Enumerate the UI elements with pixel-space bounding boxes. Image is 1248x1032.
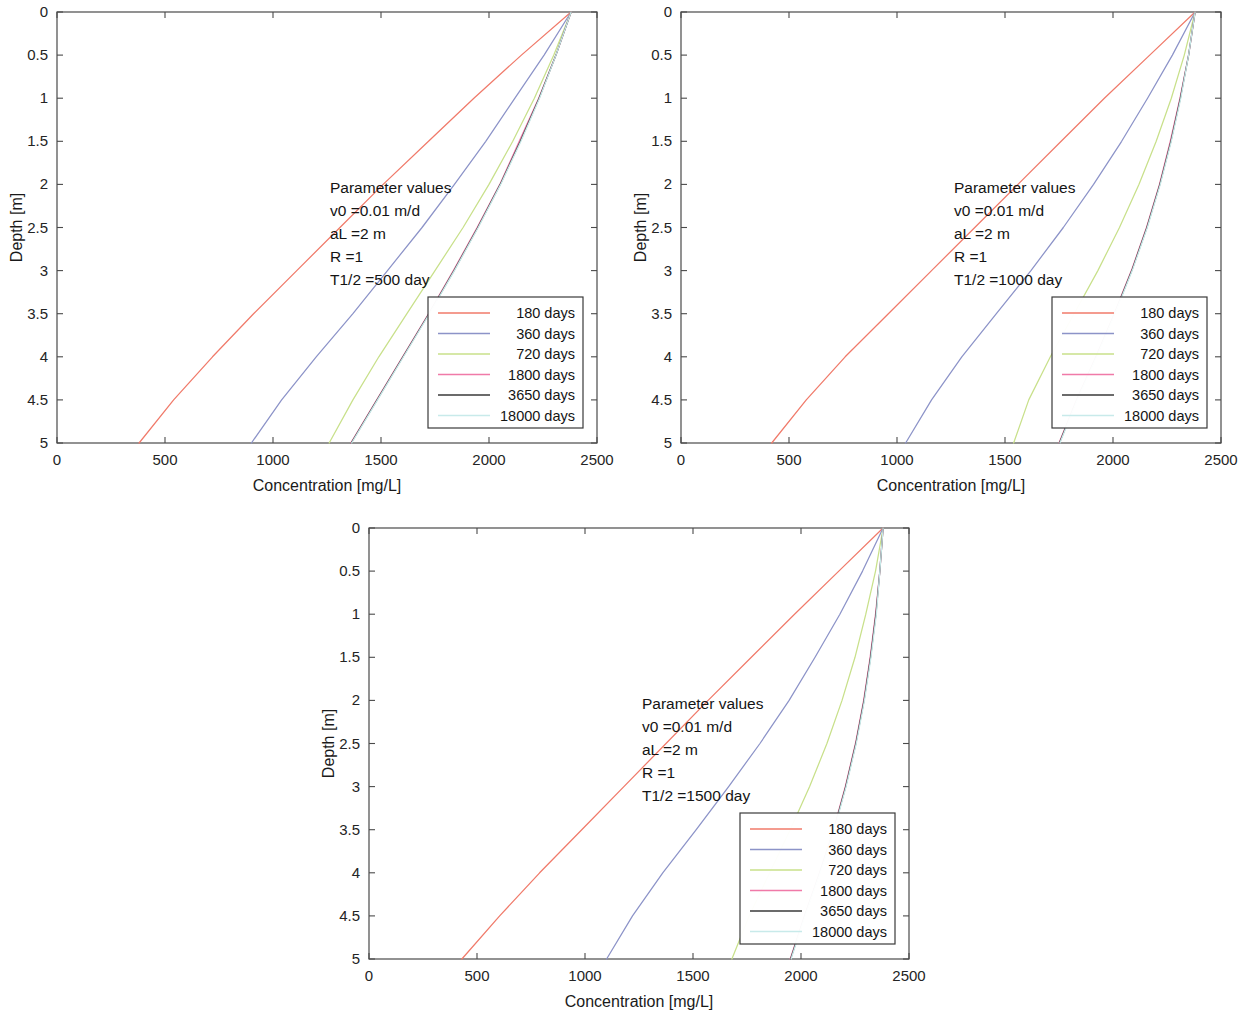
param-line-1: v0 =0.01 m/d (954, 202, 1044, 219)
x-tick-label-2500: 2500 (892, 967, 925, 984)
legend-label-3650: 3650 days (1132, 387, 1199, 403)
y-tick-label-0.5: 0.5 (651, 46, 672, 63)
y-tick-label-2.5: 2.5 (27, 219, 48, 236)
legend-label-720: 720 days (828, 862, 887, 878)
param-line-1: v0 =0.01 m/d (330, 202, 420, 219)
y-tick-label-1.5: 1.5 (651, 132, 672, 149)
y-tick-label-5: 5 (40, 434, 48, 451)
legend[interactable]: 180 days360 days720 days1800 days3650 da… (1052, 297, 1207, 428)
x-tick-label-1000: 1000 (568, 967, 601, 984)
y-axis-title: Depth [m] (320, 709, 337, 778)
y-tick-label-3: 3 (352, 778, 360, 795)
param-line-2: aL =2 m (642, 741, 698, 758)
legend[interactable]: 180 days360 days720 days1800 days3650 da… (740, 813, 895, 944)
param-line-2: aL =2 m (330, 225, 386, 242)
y-tick-label-3.5: 3.5 (27, 305, 48, 322)
y-tick-label-2: 2 (664, 175, 672, 192)
legend-label-360: 360 days (516, 326, 575, 342)
y-tick-label-1.5: 1.5 (27, 132, 48, 149)
plot-svg-1: 00.511.522.533.544.550500100015002000250… (0, 0, 624, 516)
x-tick-label-2000: 2000 (472, 451, 505, 468)
legend-label-720: 720 days (516, 346, 575, 362)
chart-panel-2: 00.511.522.533.544.550500100015002000250… (624, 0, 1248, 516)
y-tick-label-0.5: 0.5 (339, 562, 360, 579)
x-tick-label-2500: 2500 (580, 451, 613, 468)
x-tick-label-500: 500 (464, 967, 489, 984)
x-tick-label-0: 0 (365, 967, 373, 984)
legend-label-1800: 1800 days (820, 883, 887, 899)
y-tick-label-2.5: 2.5 (339, 735, 360, 752)
x-tick-label-1000: 1000 (880, 451, 913, 468)
x-tick-label-2000: 2000 (784, 967, 817, 984)
legend[interactable]: 180 days360 days720 days1800 days3650 da… (428, 297, 583, 428)
legend-label-3650: 3650 days (508, 387, 575, 403)
legend-label-1800: 1800 days (1132, 367, 1199, 383)
x-tick-label-1500: 1500 (676, 967, 709, 984)
param-line-4: T1/2 =1000 day (954, 271, 1062, 288)
x-tick-label-2000: 2000 (1096, 451, 1129, 468)
legend-label-360: 360 days (1140, 326, 1199, 342)
x-tick-label-2500: 2500 (1204, 451, 1237, 468)
x-tick-label-1000: 1000 (256, 451, 289, 468)
legend-label-18000: 18000 days (1124, 408, 1199, 424)
x-axis-title: Concentration [mg/L] (565, 993, 714, 1010)
y-tick-label-0.5: 0.5 (27, 46, 48, 63)
y-tick-label-4: 4 (40, 348, 48, 365)
legend-label-1800: 1800 days (508, 367, 575, 383)
legend-label-360: 360 days (828, 842, 887, 858)
param-line-1: v0 =0.01 m/d (642, 718, 732, 735)
legend-label-180: 180 days (828, 821, 887, 837)
y-tick-label-0: 0 (352, 519, 360, 536)
y-tick-label-4.5: 4.5 (339, 907, 360, 924)
x-tick-label-1500: 1500 (364, 451, 397, 468)
legend-label-720: 720 days (1140, 346, 1199, 362)
y-tick-label-0: 0 (40, 3, 48, 20)
x-tick-label-500: 500 (152, 451, 177, 468)
y-tick-label-1: 1 (40, 89, 48, 106)
x-tick-label-0: 0 (677, 451, 685, 468)
param-line-3: R =1 (330, 248, 363, 265)
x-tick-label-0: 0 (53, 451, 61, 468)
y-tick-label-1: 1 (664, 89, 672, 106)
x-axis-title: Concentration [mg/L] (253, 477, 402, 494)
y-tick-label-2: 2 (40, 175, 48, 192)
y-axis-title: Depth [m] (632, 193, 649, 262)
param-line-3: R =1 (954, 248, 987, 265)
y-tick-label-1.5: 1.5 (339, 648, 360, 665)
y-tick-label-3: 3 (40, 262, 48, 279)
y-tick-label-5: 5 (352, 950, 360, 967)
y-tick-label-2: 2 (352, 691, 360, 708)
param-line-4: T1/2 =1500 day (642, 787, 750, 804)
param-values-title: Parameter values (954, 179, 1076, 196)
legend-label-18000: 18000 days (812, 924, 887, 940)
y-tick-label-4.5: 4.5 (27, 391, 48, 408)
legend-label-180: 180 days (516, 305, 575, 321)
y-tick-label-2.5: 2.5 (651, 219, 672, 236)
y-axis-title: Depth [m] (8, 193, 25, 262)
legend-label-18000: 18000 days (500, 408, 575, 424)
y-tick-label-3.5: 3.5 (651, 305, 672, 322)
legend-label-3650: 3650 days (820, 903, 887, 919)
param-line-4: T1/2 =500 day (330, 271, 430, 288)
legend-label-180: 180 days (1140, 305, 1199, 321)
y-tick-label-5: 5 (664, 434, 672, 451)
y-tick-label-3.5: 3.5 (339, 821, 360, 838)
x-tick-label-500: 500 (776, 451, 801, 468)
y-tick-label-4.5: 4.5 (651, 391, 672, 408)
y-tick-label-4: 4 (664, 348, 672, 365)
y-tick-label-1: 1 (352, 605, 360, 622)
y-tick-label-3: 3 (664, 262, 672, 279)
y-tick-label-0: 0 (664, 3, 672, 20)
x-tick-label-1500: 1500 (988, 451, 1021, 468)
x-axis-title: Concentration [mg/L] (877, 477, 1026, 494)
param-line-3: R =1 (642, 764, 675, 781)
param-values-title: Parameter values (642, 695, 764, 712)
param-values-title: Parameter values (330, 179, 452, 196)
chart-panel-3: 00.511.522.533.544.550500100015002000250… (312, 516, 936, 1032)
plot-svg-2: 00.511.522.533.544.550500100015002000250… (624, 0, 1248, 516)
plot-svg-3: 00.511.522.533.544.550500100015002000250… (312, 516, 936, 1032)
y-tick-label-4: 4 (352, 864, 360, 881)
param-line-2: aL =2 m (954, 225, 1010, 242)
chart-panel-1: 00.511.522.533.544.550500100015002000250… (0, 0, 624, 516)
